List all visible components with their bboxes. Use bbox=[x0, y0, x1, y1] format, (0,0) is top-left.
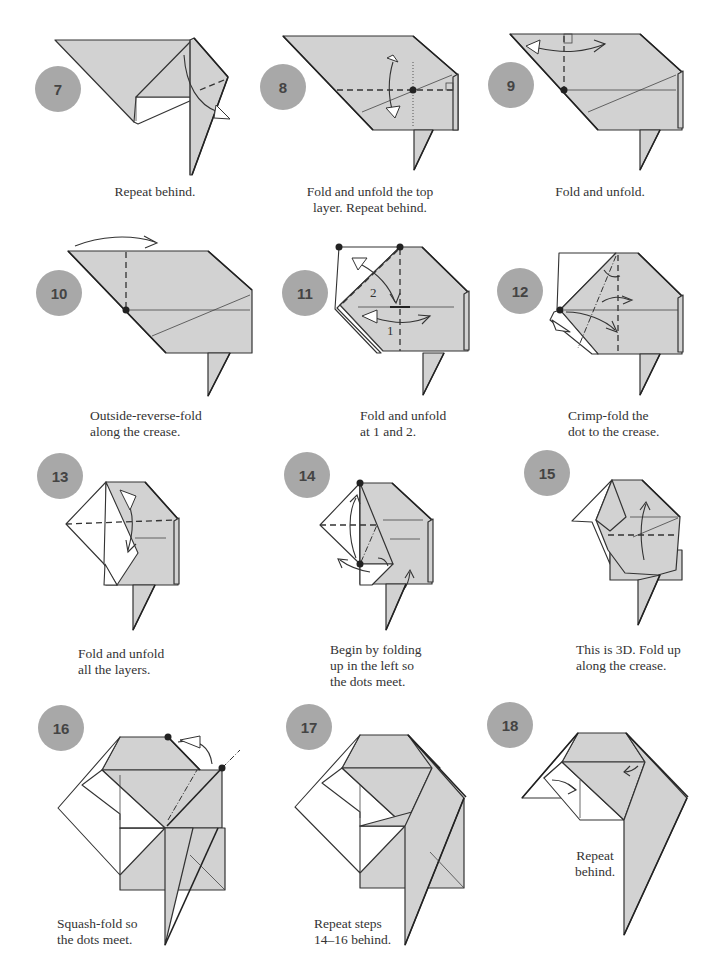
fold-label-1: 1 bbox=[387, 323, 394, 338]
step-number-badge: 14 bbox=[284, 452, 330, 498]
fold-diagram-15 bbox=[480, 440, 722, 660]
step-caption: Outside-reverse-fold along the crease. bbox=[90, 408, 230, 440]
step-number-badge: 7 bbox=[35, 66, 81, 112]
step-number-badge: 15 bbox=[524, 450, 570, 496]
fold-diagram-11: 2 1 bbox=[240, 220, 480, 440]
fold-diagram-13 bbox=[0, 440, 240, 660]
fold-diagram-10 bbox=[0, 220, 240, 440]
step-caption: Repeat behind. bbox=[560, 848, 630, 880]
step-16: 16 Squash-fold so the dots meet. bbox=[0, 680, 240, 977]
step-number-badge: 18 bbox=[487, 702, 533, 748]
step-number-badge: 9 bbox=[488, 62, 534, 108]
step-7: 7 Repeat behind. bbox=[0, 0, 240, 220]
step-number-badge: 10 bbox=[36, 270, 82, 316]
step-caption: Fold and unfold at 1 and 2. bbox=[360, 408, 460, 440]
step-caption: Fold and unfold all the layers. bbox=[78, 646, 198, 678]
step-12: 12 Crimp-fold the dot to the crease. bbox=[480, 220, 722, 440]
fold-label-2: 2 bbox=[370, 285, 377, 300]
step-number-badge: 8 bbox=[260, 64, 306, 110]
step-18: 18 Repeat behind. bbox=[480, 680, 722, 977]
step-caption: Fold and unfold. bbox=[535, 184, 665, 200]
step-number-badge: 17 bbox=[286, 704, 332, 750]
step-9: 9 Fold and unfold. bbox=[480, 0, 722, 220]
step-number-badge: 13 bbox=[37, 453, 83, 499]
step-8: 8 Fold and unfold the top layer. Repeat … bbox=[240, 0, 480, 220]
step-17: 17 Repeat steps 14–16 behind. bbox=[240, 680, 480, 977]
step-caption: Repeat steps 14–16 behind. bbox=[314, 916, 424, 948]
step-15: 15 This is 3D. Fold up along the crease. bbox=[480, 440, 722, 660]
step-number-badge: 11 bbox=[282, 270, 328, 316]
step-caption: This is 3D. Fold up along the crease. bbox=[576, 642, 716, 674]
step-caption: Squash-fold so the dots meet. bbox=[57, 916, 177, 948]
step-11: 2 1 11 Fold and unfold at 1 and 2. bbox=[240, 220, 480, 440]
step-number-badge: 16 bbox=[38, 705, 84, 751]
step-14: 14 Begin by folding up in the left so th… bbox=[240, 440, 480, 660]
fold-diagram-12 bbox=[480, 220, 722, 440]
fold-diagram-14 bbox=[240, 440, 480, 660]
step-caption: Fold and unfold the top layer. Repeat be… bbox=[290, 184, 450, 216]
step-13: 13 Fold and unfold all the layers. bbox=[0, 440, 240, 660]
step-number-badge: 12 bbox=[497, 268, 543, 314]
step-10: 10 Outside-reverse-fold along the crease… bbox=[0, 220, 240, 440]
step-caption: Repeat behind. bbox=[60, 184, 250, 200]
step-caption: Crimp-fold the dot to the crease. bbox=[568, 408, 678, 440]
